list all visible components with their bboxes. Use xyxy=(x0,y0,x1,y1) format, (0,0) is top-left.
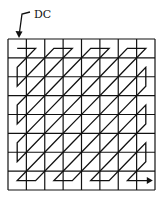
dc-label: DC xyxy=(34,8,51,21)
dc-pointer-arrowhead-icon xyxy=(16,31,23,38)
end-arrow-icon xyxy=(147,177,153,184)
zigzag-diagram: DC xyxy=(0,0,162,203)
